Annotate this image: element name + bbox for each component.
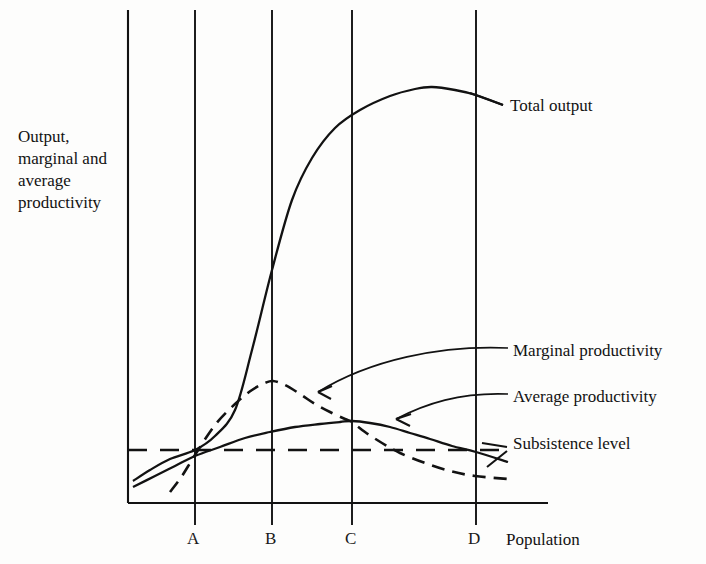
y-axis-label: Output, marginal and average productivit…	[18, 126, 128, 214]
label-subsistence-level: Subsistence level	[513, 433, 631, 455]
x-axis-label: Population	[506, 529, 580, 551]
chart-axes	[128, 503, 548, 525]
x-tick-label-c: C	[345, 529, 356, 549]
leader-average-productivity	[396, 394, 508, 419]
x-axis-tickmarks	[195, 503, 476, 525]
data-series-layer	[128, 87, 508, 492]
label-marginal-productivity: Marginal productivity	[513, 340, 662, 362]
x-tick-label-d: D	[468, 529, 480, 549]
leader-marginal-productivity	[318, 348, 508, 392]
x-tick-label-a: A	[187, 529, 199, 549]
chart-canvas	[0, 0, 706, 564]
x-tick-label-b: B	[265, 529, 276, 549]
label-total-output: Total output	[510, 95, 592, 117]
leader-total-output	[470, 93, 503, 105]
marginal-arrowhead-icon	[318, 386, 332, 399]
series-average-productivity	[133, 421, 508, 487]
series-total-output	[133, 87, 503, 481]
callout-leader-lines	[318, 93, 508, 467]
average-arrowhead-icon	[396, 414, 411, 426]
figure-population-output-chart: Output, marginal and average productivit…	[0, 0, 706, 564]
label-average-productivity: Average productivity	[513, 386, 657, 408]
vertical-gridlines	[128, 10, 476, 503]
